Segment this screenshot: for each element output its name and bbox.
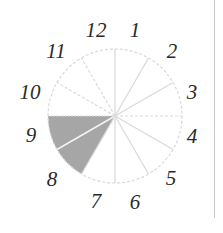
- clock-label-2: 2: [167, 41, 178, 62]
- clock-label-5: 5: [166, 168, 177, 189]
- clock-label-8: 8: [47, 169, 58, 190]
- clock-label-3: 3: [187, 82, 198, 103]
- clock-label-10: 10: [20, 82, 41, 103]
- clock-label-4: 4: [187, 126, 198, 147]
- right-divider-line: [214, 0, 215, 218]
- clock-label-6: 6: [130, 192, 141, 213]
- clock-label-11: 11: [46, 41, 65, 62]
- clock-circle-graphic: [0, 0, 223, 233]
- clock-label-9: 9: [26, 125, 37, 146]
- clock-diagram: 12 1 2 3 4 5 6 7 8 9 10 11: [0, 0, 223, 233]
- clock-label-1: 1: [130, 20, 141, 41]
- clock-label-12: 12: [86, 20, 107, 41]
- clock-label-7: 7: [91, 191, 102, 212]
